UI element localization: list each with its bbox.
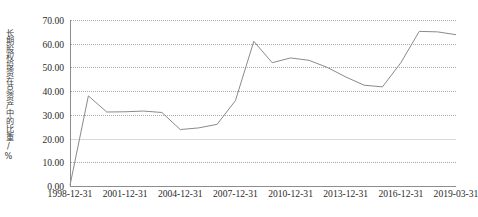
x-tick-label: 2019-03-31	[434, 188, 478, 199]
x-tick-label: 2013-12-31	[323, 188, 368, 199]
y-tick-label: 60.00	[42, 38, 64, 49]
y-tick-label: 70.00	[42, 15, 64, 26]
y-axis-tick-labels: 0.0010.0020.0030.0040.0050.0060.0070.00	[16, 0, 68, 217]
y-tick-label: 40.00	[42, 86, 64, 97]
plot-area	[70, 20, 456, 186]
x-tick-label: 1998-12-31	[48, 188, 93, 199]
x-tick-label: 2001-12-31	[103, 188, 148, 199]
y-tick-label: 50.00	[42, 62, 64, 73]
x-tick-label: 2010-12-31	[268, 188, 313, 199]
x-tick-label: 2004-12-31	[158, 188, 203, 199]
y-tick-label: 10.00	[42, 157, 64, 168]
y-tick-label: 20.00	[42, 133, 64, 144]
x-tick-label: 2007-12-31	[213, 188, 258, 199]
y-axis-line	[70, 20, 71, 186]
series-polyline	[70, 31, 456, 185]
y-tick-label: 30.00	[42, 109, 64, 120]
x-axis-tick-labels: 1998-12-312001-12-312004-12-312007-12-31…	[0, 188, 474, 208]
x-axis-line	[70, 186, 456, 187]
series-line	[70, 20, 456, 186]
y-axis-title: 长期股权投资在总资产中的比重/%	[1, 0, 15, 190]
x-tick-label: 2016-12-31	[378, 188, 423, 199]
